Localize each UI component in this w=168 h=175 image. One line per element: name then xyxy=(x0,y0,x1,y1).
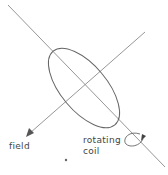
field-vector-line xyxy=(30,32,145,133)
rotating-coil-label-line2: coil xyxy=(83,146,100,156)
field-label: field xyxy=(9,141,30,151)
rotating-coil-label-line1: rotating xyxy=(83,135,121,145)
dot-mark xyxy=(65,159,67,161)
rotation-arrowhead-icon xyxy=(141,134,146,141)
coil-loop xyxy=(36,36,133,139)
field-arrowhead-icon xyxy=(26,128,34,137)
